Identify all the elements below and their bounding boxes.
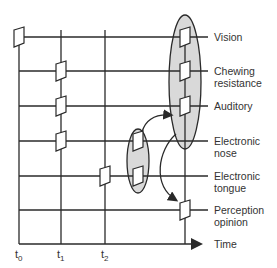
node-etongue-fused <box>133 166 143 186</box>
node-vision-fused <box>180 27 190 47</box>
node-vision-t0 <box>14 27 24 47</box>
time-axis-label: Time <box>214 238 237 250</box>
tick-t1: t1 <box>57 248 65 263</box>
arrow-sensors-to-senses <box>142 115 171 132</box>
row-label-auditory: Auditory <box>214 100 253 112</box>
node-enose-fused <box>133 131 143 151</box>
row-label-vision: Vision <box>214 31 242 43</box>
row-label-chewing-resistance: Chewingresistance <box>214 65 262 89</box>
node-perception <box>180 200 190 220</box>
node-auditory-t1 <box>56 96 66 116</box>
row-label-perception-opinion: Perceptionopinion <box>214 204 264 228</box>
node-enose-t1 <box>56 131 66 151</box>
tick-t0: t0 <box>15 248 23 263</box>
vertical-gridlines <box>19 30 185 244</box>
node-chewing-fused <box>180 61 190 81</box>
row-label-electronic-nose: Electronicnose <box>214 135 260 159</box>
node-auditory-fused <box>180 96 190 116</box>
tick-t2: t2 <box>101 248 109 263</box>
arrow-senses-to-perception <box>160 134 176 200</box>
node-chewing-t1 <box>56 61 66 81</box>
node-etongue-t2 <box>100 166 110 186</box>
row-label-electronic-tongue: Electronictongue <box>214 170 260 194</box>
